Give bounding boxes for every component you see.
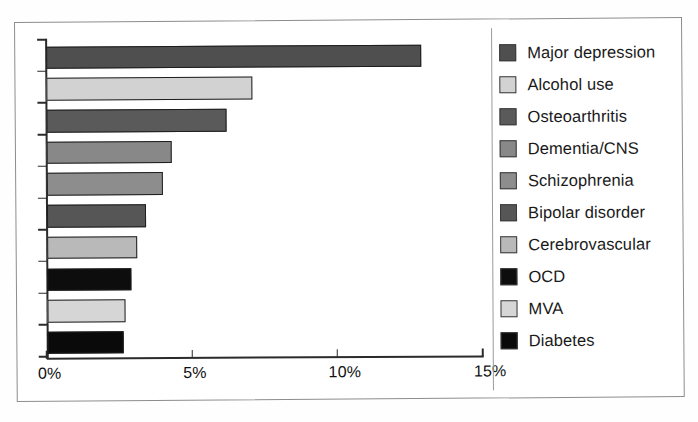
x-axis-tick-label: 15% [474,362,507,380]
bar-major-depression [46,44,421,68]
y-axis-tick [37,102,46,104]
legend-item-label: Alcohol use [527,74,614,93]
y-axis-tick [38,165,47,167]
legend-divider [491,28,494,390]
bar-ocd [47,268,131,291]
x-axis-line [47,355,484,359]
y-axis-tick-group [0,0,697,1]
x-axis-tick-label: 10% [328,363,361,381]
legend-swatch-icon [499,76,516,93]
legend-item-label: Diabetes [529,331,595,350]
legend-item-label: Bipolar disorder [528,203,645,223]
bar-mva [47,299,126,322]
legend-item-schizophrenia[interactable]: Schizophrenia [500,164,685,197]
bar-alcohol-use [46,77,252,101]
legend-swatch-icon [500,204,517,221]
legend-swatch-icon [499,44,516,61]
legend-item-label: Osteoarthritis [527,106,627,126]
bar-series [0,0,697,1]
bar-bipolar-disorder [47,204,146,227]
x-axis-tick-label: 5% [183,364,207,382]
legend-item-bipolar-disorder[interactable]: Bipolar disorder [500,196,685,229]
legend-item-ocd[interactable]: OCD [500,260,685,293]
legend-swatch-icon [500,140,517,157]
legend-item-label: Major depression [527,42,655,62]
legend-swatch-icon [500,236,517,253]
legend-swatch-icon [500,268,517,285]
legend-item-label: Cerebrovascular [528,235,651,255]
x-axis-tick [191,350,193,358]
y-axis-tick [38,197,47,199]
legend-item-osteoarthritis[interactable]: Osteoarthritis [499,100,684,133]
legend-item-label: Schizophrenia [528,171,634,191]
bar-diabetes [48,331,124,354]
legend-item-mva[interactable]: MVA [500,292,685,325]
y-axis-tick [37,70,46,72]
legend-swatch-icon [500,301,517,318]
x-axis-tick-group [0,0,697,1]
y-axis-tick [39,324,48,326]
bar-dementia-cns [47,141,172,164]
x-axis-tick [482,348,484,356]
legend-item-label: MVA [528,299,563,318]
legend: Major depressionAlcohol useOsteoarthriti… [499,35,686,357]
y-axis-tick [37,39,46,41]
legend-swatch-icon [500,172,517,189]
bar-cerebrovascular [47,236,137,259]
legend-swatch-icon [501,333,518,350]
x-axis-tick-label-group: 0%5%10%15% [0,0,697,1]
y-axis-tick [38,229,47,231]
legend-item-major-depression[interactable]: Major depression [499,35,684,68]
bar-schizophrenia [47,172,163,195]
x-axis-tick-label: 0% [38,365,62,383]
legend-item-cerebrovascular[interactable]: Cerebrovascular [500,228,685,261]
bar-osteoarthritis [46,109,226,132]
y-axis-tick [38,261,47,263]
x-axis-tick [337,349,339,357]
chart-stage: 0%5%10%15% Major depressionAlcohol useOs… [0,0,698,422]
legend-item-label: Dementia/CNS [528,138,639,158]
y-axis-tick [38,292,47,294]
legend-item-dementia-cns[interactable]: Dementia/CNS [500,132,685,165]
legend-item-diabetes[interactable]: Diabetes [501,324,686,357]
legend-item-label: OCD [528,267,565,286]
legend-swatch-icon [499,108,516,125]
y-axis-tick [38,134,47,136]
figure-root: 0%5%10%15% Major depressionAlcohol useOs… [0,0,698,422]
legend-item-alcohol-use[interactable]: Alcohol use [499,67,684,100]
